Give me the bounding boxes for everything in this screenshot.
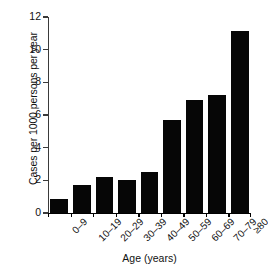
y-tick: 4 bbox=[43, 147, 48, 148]
y-tick: 6 bbox=[43, 114, 48, 115]
y-tick: 10 bbox=[43, 49, 48, 50]
x-tick-label: 20–29 bbox=[119, 216, 146, 243]
x-tick bbox=[48, 213, 49, 217]
bar bbox=[96, 177, 114, 213]
x-tick-label: 60–69 bbox=[209, 216, 236, 243]
bar bbox=[73, 185, 91, 213]
x-tick-label: 30–39 bbox=[141, 216, 168, 243]
y-tick-label: 10 bbox=[29, 43, 41, 55]
bar-chart-figure: Cases per 1000 persons per year 02468101… bbox=[0, 0, 268, 272]
y-tick: 2 bbox=[43, 180, 48, 181]
bar bbox=[163, 120, 181, 213]
bar bbox=[231, 31, 249, 213]
bar bbox=[186, 100, 204, 213]
y-axis-line bbox=[48, 17, 49, 213]
x-tick-label: 10–19 bbox=[96, 216, 123, 243]
x-tick bbox=[71, 213, 72, 217]
bar bbox=[50, 199, 68, 213]
bar bbox=[141, 172, 159, 213]
bar bbox=[118, 180, 136, 213]
plot-area: 024681012 0–910–1920–2930–3940–4950–5960… bbox=[48, 17, 251, 213]
x-tick-label: 0–9 bbox=[70, 216, 90, 236]
y-tick-label: 0 bbox=[35, 206, 41, 218]
y-tick: 8 bbox=[43, 82, 48, 83]
y-tick-label: 12 bbox=[29, 10, 41, 22]
y-tick-label: 8 bbox=[35, 75, 41, 87]
y-tick-label: 2 bbox=[35, 173, 41, 185]
y-tick-label: 4 bbox=[35, 141, 41, 153]
y-tick-label: 6 bbox=[35, 108, 41, 120]
x-tick-label: 40–49 bbox=[164, 216, 191, 243]
x-axis-title: Age (years) bbox=[48, 252, 251, 264]
x-tick-label: 50–59 bbox=[186, 216, 213, 243]
y-tick: 12 bbox=[43, 16, 48, 17]
x-tick bbox=[93, 213, 94, 217]
bar bbox=[208, 95, 226, 213]
